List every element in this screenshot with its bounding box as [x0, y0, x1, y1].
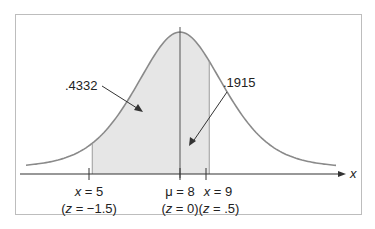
- x5-label: x = 5: [74, 184, 104, 199]
- axis-arrow-icon: [338, 171, 346, 177]
- shaded-area: [92, 32, 209, 174]
- mean-label: μ = 8: [165, 184, 195, 199]
- axis-label: x: [349, 166, 357, 181]
- x9-z-label: (z = .5): [199, 201, 240, 216]
- x5-z-label: (z = −1.5): [61, 201, 117, 216]
- normal-curve-chart: x .4332 .1915 x = 5 (z = −1.5) μ = 8 (z …: [0, 0, 375, 229]
- mean-z-label: (z = 0): [161, 201, 198, 216]
- right-area-label: .1915: [223, 75, 256, 90]
- left-area-label: .4332: [65, 78, 98, 93]
- x9-label: x = 9: [203, 184, 233, 199]
